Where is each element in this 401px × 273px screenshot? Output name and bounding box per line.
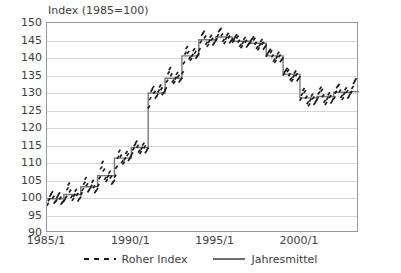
roher-index-point	[224, 41, 226, 44]
roher-index-point	[331, 101, 333, 104]
chart-title: Index (1985=100)	[48, 4, 149, 17]
roher-index-point	[260, 39, 262, 42]
roher-index-point	[329, 95, 331, 98]
series-jahresmittel-line	[47, 37, 359, 199]
x-axis-tick-label: 1990/1	[111, 234, 150, 247]
legend-label-roher-index: Roher Index	[122, 253, 188, 266]
roher-index-point	[69, 190, 71, 193]
roher-index-point	[294, 71, 296, 74]
series-roher-index-points	[47, 28, 356, 206]
roher-index-point	[309, 99, 311, 102]
roher-index-point	[175, 77, 177, 80]
dashed-line-icon	[84, 254, 116, 264]
plot-area	[46, 22, 358, 232]
roher-index-point	[109, 171, 111, 174]
roher-index-point	[325, 102, 327, 105]
roher-index-point	[277, 52, 279, 55]
y-axis-tick-label: 120	[2, 122, 42, 133]
roher-index-point	[200, 40, 202, 43]
roher-index-point	[193, 48, 195, 51]
roher-index-point	[56, 195, 58, 198]
roher-index-point	[307, 101, 309, 104]
roher-index-point	[183, 61, 185, 64]
roher-index-point	[318, 92, 320, 95]
roher-index-point	[58, 192, 60, 195]
roher-index-point	[68, 183, 70, 186]
y-axis-tick-label: 100	[2, 192, 42, 203]
y-axis-tick-label: 105	[2, 175, 42, 186]
roher-index-point	[324, 100, 326, 103]
roher-index-point	[75, 189, 77, 192]
roher-index-point	[127, 153, 129, 156]
roher-index-point	[118, 150, 120, 153]
y-axis-tick-label: 125	[2, 105, 42, 116]
roher-index-point	[238, 40, 240, 43]
roher-index-point	[279, 54, 281, 57]
roher-index-point	[303, 88, 305, 91]
roher-index-point	[342, 97, 344, 100]
legend-entry-roher-index: Roher Index	[84, 253, 188, 266]
roher-index-point	[220, 28, 222, 31]
roher-index-point	[145, 150, 147, 153]
roher-index-point	[319, 87, 321, 90]
roher-index-point	[104, 177, 106, 180]
roher-index-point	[125, 151, 127, 154]
roher-index-point	[82, 188, 84, 191]
roher-index-point	[177, 75, 179, 78]
roher-index-point	[222, 39, 224, 42]
roher-index-point	[203, 31, 205, 34]
x-axis-tick-label: 1985/1	[27, 234, 66, 247]
roher-index-point	[149, 97, 151, 100]
roher-index-point	[184, 52, 186, 55]
roher-index-point	[353, 81, 355, 84]
roher-index-point	[340, 95, 342, 98]
roher-index-point	[99, 176, 101, 179]
roher-index-point	[312, 96, 314, 99]
roher-index-point	[96, 188, 98, 191]
roher-index-point	[72, 198, 74, 201]
roher-index-point	[347, 96, 349, 99]
roher-index-point	[335, 91, 337, 94]
y-axis-tick-label: 115	[2, 140, 42, 151]
roher-index-point	[156, 94, 158, 97]
x-axis-tick-labels: 1985/11990/11995/12000/1	[46, 234, 358, 250]
roher-index-point	[255, 42, 257, 45]
roher-index-point	[101, 161, 103, 164]
roher-index-point	[271, 54, 273, 57]
roher-index-point	[311, 94, 313, 97]
roher-index-point	[79, 197, 81, 200]
roher-index-point	[176, 72, 178, 75]
y-axis-tick-label: 140	[2, 52, 42, 63]
solid-line-icon	[213, 254, 245, 264]
roher-index-point	[51, 191, 53, 194]
roher-index-point	[345, 87, 347, 90]
data-layer	[47, 23, 359, 233]
roher-index-point	[115, 166, 117, 169]
roher-index-point	[158, 89, 160, 92]
roher-index-point	[47, 203, 49, 206]
jahresmittel-step-path	[47, 37, 359, 199]
y-axis-tick-label: 150	[2, 17, 42, 28]
y-axis-tick-label: 110	[2, 157, 42, 168]
roher-index-point	[168, 71, 170, 74]
roher-index-point	[304, 90, 306, 93]
roher-index-point	[204, 36, 206, 39]
roher-index-point	[142, 143, 144, 146]
roher-index-point	[338, 84, 340, 87]
roher-index-point	[134, 143, 136, 146]
roher-index-point	[89, 187, 91, 190]
roher-index-point	[92, 180, 94, 183]
x-axis-tick-label: 1995/1	[195, 234, 234, 247]
roher-index-point	[106, 179, 108, 182]
legend-label-jahresmittel: Jahresmittel	[251, 253, 317, 266]
roher-index-point	[352, 86, 354, 89]
roher-index-point	[85, 177, 87, 180]
roher-index-point	[71, 195, 73, 198]
y-axis-tick-label: 135	[2, 70, 42, 81]
roher-index-point	[187, 51, 189, 54]
roher-index-point	[161, 87, 163, 90]
roher-index-point	[65, 196, 67, 199]
legend-entry-jahresmittel: Jahresmittel	[213, 253, 317, 266]
roher-index-point	[66, 187, 68, 190]
roher-index-point	[55, 199, 57, 202]
